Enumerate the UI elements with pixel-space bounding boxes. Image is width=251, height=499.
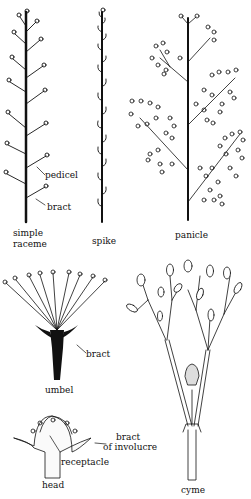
inflorescence-diagram: [0, 0, 251, 499]
annotation-bract-involucre-line1: bract: [116, 432, 140, 442]
head-drawing: [14, 416, 106, 478]
annotation-bract-umbel: bract: [86, 349, 110, 359]
panicle-drawing: [129, 14, 245, 220]
annotation-receptacle: receptacle: [61, 457, 109, 467]
umbel-drawing: [3, 270, 107, 380]
caption-head: head: [42, 480, 64, 490]
caption-spike: spike: [92, 236, 116, 246]
caption-simple-raceme-line1: simple: [13, 228, 43, 238]
caption-cyme: cyme: [181, 485, 205, 495]
caption-umbel: umbel: [45, 385, 73, 395]
caption-simple-raceme-line2: raceme: [13, 239, 47, 249]
spike-drawing: [98, 8, 107, 222]
simple-raceme-drawing: [4, 9, 49, 222]
annotation-bract-raceme: bract: [47, 202, 71, 212]
caption-panicle: panicle: [175, 230, 208, 240]
annotation-bract-involucre-line2: of involucre: [103, 442, 157, 452]
annotation-pedicel: pedicel: [45, 170, 78, 180]
